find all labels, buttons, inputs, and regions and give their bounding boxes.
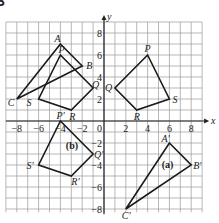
x-axis-label: x (210, 115, 216, 126)
vertex-label: B' (193, 160, 202, 171)
quad-PQRS-right-polygon (115, 55, 169, 110)
vertex-label: A' (160, 133, 170, 144)
vertex-label: R (68, 111, 75, 122)
x-tick-label: 8 (189, 123, 194, 134)
vertex-label: P (144, 43, 151, 54)
y-tick-label: 8 (97, 28, 102, 39)
y-tick-label: −4 (91, 160, 102, 171)
y-axis-arrow-icon (102, 15, 107, 20)
vertex-label: S' (27, 160, 35, 171)
x-axis-arrow-icon (204, 119, 209, 124)
exercise-number: 3 (0, 0, 5, 9)
vertex-label: P' (55, 110, 65, 121)
x-tick-label: −8 (11, 123, 22, 134)
vertex-label: R (133, 111, 140, 122)
vertex-label: C (8, 97, 15, 108)
vertex-label: R' (70, 176, 80, 187)
x-tick-label: 2 (123, 123, 128, 134)
vertex-label: S (172, 94, 177, 105)
vertex-label: Q (105, 82, 113, 93)
vertex-label: Q' (94, 149, 104, 160)
y-tick-label: 2 (97, 94, 102, 105)
quad-PQRS-left-polygon (39, 55, 94, 110)
vertex-label: S (27, 97, 32, 108)
x-tick-label: 4 (145, 123, 150, 134)
part-label: (a) (162, 159, 174, 171)
y-axis-label: y (106, 11, 112, 22)
vertex-label: P (57, 44, 64, 55)
origin-label: 0 (97, 123, 102, 134)
y-tick-label: 6 (97, 50, 102, 61)
vertex-label: C' (122, 210, 132, 221)
vertex-label: B (86, 60, 92, 71)
axes: xy (6, 11, 216, 214)
y-tick-label: −8 (91, 204, 102, 215)
vertex-label: A (53, 33, 61, 44)
coordinate-plane: xy −8−6−4−224688642−2−4−6−80 ABCPQRSPQRS… (0, 0, 219, 223)
y-tick-label: −6 (91, 182, 102, 193)
part-label: (b) (66, 140, 78, 152)
x-tick-label: −6 (33, 123, 44, 134)
y-tick-label: −2 (91, 138, 102, 149)
x-tick-label: −2 (77, 123, 88, 134)
vertex-label: Q (92, 79, 100, 90)
coordinate-diagram: 3 xy −8−6−4−224688642−2−4−6−80 ABCPQRSPQ… (0, 0, 219, 223)
